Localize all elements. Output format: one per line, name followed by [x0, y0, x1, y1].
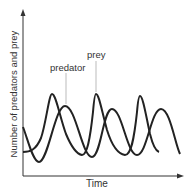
y-axis-label: Number of predators and prey [8, 19, 22, 169]
predator-annotation: predator [50, 62, 85, 73]
predator-prey-chart [0, 0, 195, 193]
x-axis-arrow-icon [177, 174, 184, 179]
y-axis-arrow-icon [21, 9, 26, 16]
x-axis-label: Time [86, 178, 108, 189]
prey-annotation: prey [87, 49, 105, 60]
prey-line [23, 94, 159, 155]
